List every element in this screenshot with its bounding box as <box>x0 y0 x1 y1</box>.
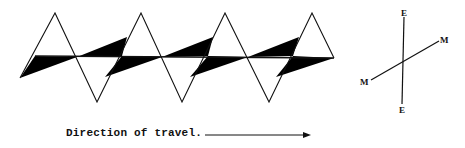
black-wedge <box>248 37 299 57</box>
direction-caption: Direction of travel. <box>66 127 202 139</box>
label-e-top: E <box>401 8 407 18</box>
label-m-right: M <box>440 35 449 45</box>
mm-axis-line <box>371 41 439 80</box>
direction-arrow <box>205 132 311 138</box>
label-e-bottom: E <box>399 105 405 115</box>
diagram-canvas: E E M M <box>0 0 465 148</box>
black-wedge <box>20 56 77 78</box>
ee-axis-line <box>402 17 404 104</box>
black-wedge <box>276 56 334 77</box>
midline <box>35 56 334 58</box>
black-wedge <box>105 56 162 77</box>
compass-diagram: E E M M <box>360 8 449 115</box>
label-m-left: M <box>360 77 369 87</box>
black-wedge <box>77 37 127 57</box>
arrow-right-icon <box>303 132 311 138</box>
